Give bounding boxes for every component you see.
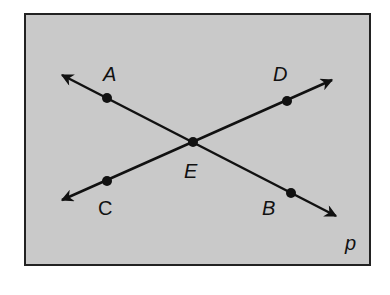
point-b <box>286 188 296 198</box>
label-d: D <box>273 63 287 85</box>
label-b: B <box>262 197 275 219</box>
plane-diagram: A D E C B p <box>0 0 390 295</box>
point-d <box>282 96 292 106</box>
point-e <box>188 137 198 147</box>
point-c <box>102 176 112 186</box>
label-e: E <box>184 160 198 182</box>
label-a: A <box>102 63 116 85</box>
point-a <box>102 93 112 103</box>
label-c: C <box>98 197 112 219</box>
label-plane-p: p <box>344 232 356 254</box>
